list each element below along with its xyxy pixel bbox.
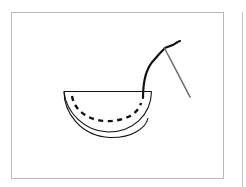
thread <box>143 41 180 98</box>
dashed-stitch-line <box>72 96 141 121</box>
sewing-illustration <box>0 0 246 187</box>
half-circle-fabric <box>64 92 152 138</box>
sewing-needle <box>165 48 191 97</box>
